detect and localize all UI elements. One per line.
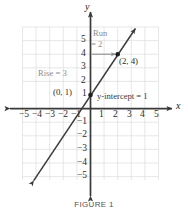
figure-container: y x −5 −4 −3 −2 −1 1 2 3 4 5 5 4 3 2 1 −… xyxy=(0,0,188,209)
y-intercept-annotation: y-intercept = 1 xyxy=(97,92,148,101)
point-0-1 xyxy=(88,93,93,98)
x-tick-1: 1 xyxy=(99,110,104,120)
x-tick-3: 3 xyxy=(127,110,132,120)
x-tick-4: 4 xyxy=(140,110,145,120)
y-tick--1: −1 xyxy=(77,117,87,127)
y-tick--2: −2 xyxy=(77,130,87,140)
y-tick-4: 4 xyxy=(81,49,86,59)
point-label-0-1: (0, 1) xyxy=(53,88,72,97)
y-tick-3: 3 xyxy=(81,62,86,72)
x-tick--4: −4 xyxy=(32,110,42,120)
y-tick--5: −5 xyxy=(77,171,87,181)
y-tick--4: −4 xyxy=(77,158,87,168)
y-axis-label: y xyxy=(85,2,89,12)
y-tick--3: −3 xyxy=(77,144,87,154)
x-tick-5: 5 xyxy=(154,110,159,120)
x-tick--2: −2 xyxy=(58,110,68,120)
rise-annotation: Rise = 3 xyxy=(38,69,67,78)
figure-caption: FIGURE 1 xyxy=(0,200,188,209)
run-annotation-line1: Run xyxy=(93,29,107,38)
y-tick-1: 1 xyxy=(82,89,87,99)
x-tick--3: −3 xyxy=(45,110,55,120)
x-tick--5: −5 xyxy=(19,110,29,120)
x-axis-label: x xyxy=(176,101,180,111)
y-tick-5: 5 xyxy=(81,35,86,45)
run-annotation-line2: = 2 xyxy=(91,40,102,49)
x-tick-2: 2 xyxy=(113,110,118,120)
y-tick-2: 2 xyxy=(81,76,86,86)
point-label-2-4: (2, 4) xyxy=(119,57,138,66)
